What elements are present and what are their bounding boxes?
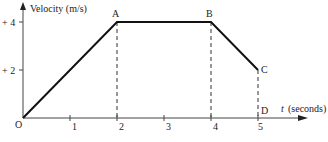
point-a-label: A <box>112 8 120 19</box>
y-axis-label: Velocity (m/s) <box>30 3 87 15</box>
y-axis-arrow-icon <box>20 2 26 10</box>
x-axis-label-unit: (seconds) <box>288 103 326 115</box>
x-tick-label-3: 3 <box>166 121 171 132</box>
x-tick-label-1: 1 <box>72 121 77 132</box>
x-tick-label-5: 5 <box>258 121 263 132</box>
velocity-line <box>23 22 258 118</box>
x-tick-label-4: 4 <box>213 121 218 132</box>
point-b-label: B <box>206 8 213 19</box>
y-tick-label-4: + 4 <box>2 17 15 28</box>
velocity-time-chart: Velocity (m/s) + 4 + 2 A B C D O 1 2 3 4… <box>0 0 328 142</box>
x-axis-label-t: t <box>281 103 284 114</box>
origin-label: O <box>15 119 22 130</box>
y-tick-label-2: + 2 <box>2 65 15 76</box>
x-tick-label-2: 2 <box>119 121 124 132</box>
x-axis-arrow-icon <box>298 115 308 121</box>
point-c-label: C <box>261 64 268 75</box>
point-d-label: D <box>261 105 268 116</box>
